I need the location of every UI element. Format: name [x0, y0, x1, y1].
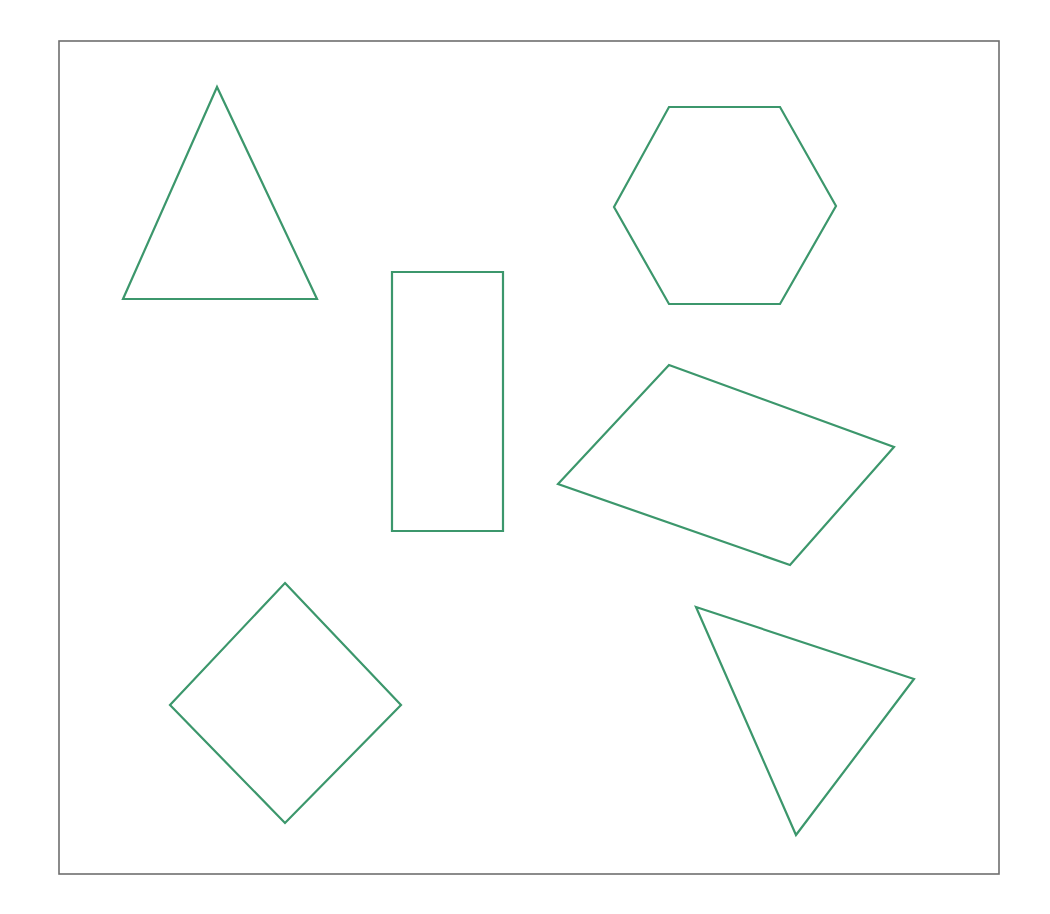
square-diamond [170, 583, 401, 823]
shapes-svg-surface [0, 0, 1050, 914]
border-frame [59, 41, 999, 874]
triangle-scalene [696, 607, 914, 835]
rectangle-rotated [558, 365, 894, 565]
triangle-isosceles [123, 87, 317, 299]
rectangle-upright [392, 272, 503, 531]
figure-canvas [0, 0, 1050, 914]
shape-layer [123, 87, 914, 835]
hexagon [614, 107, 836, 304]
